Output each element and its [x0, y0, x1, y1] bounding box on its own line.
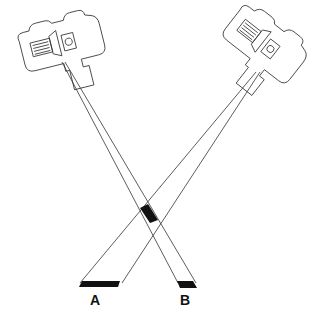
beam-to-a	[80, 72, 260, 283]
right-camera	[203, 0, 315, 108]
target-bar-b	[177, 281, 197, 288]
target-bar-a	[79, 281, 120, 287]
left-camera	[15, 6, 113, 100]
right-camera-knob	[266, 44, 276, 54]
label-b: B	[180, 292, 190, 308]
beam-to-b	[62, 62, 196, 283]
left-camera-lens	[48, 31, 62, 58]
beam-intersection	[140, 204, 158, 223]
label-a: A	[90, 292, 100, 308]
left-camera-knob	[64, 37, 72, 45]
diagram-canvas	[0, 0, 315, 325]
right-camera-body	[203, 0, 315, 108]
left-camera-body	[15, 6, 113, 100]
